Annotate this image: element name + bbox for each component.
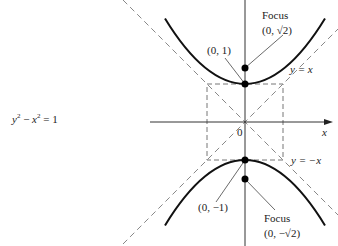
x-axis-arrow-icon (324, 119, 333, 125)
asymptote-y-neg-x (123, 0, 338, 215)
focus-bottom-title: Focus (264, 212, 290, 224)
focus-top-point (242, 65, 249, 72)
vertex-bottom-point (242, 157, 249, 164)
vertex-bottom-label: (0, −1) (198, 201, 228, 213)
vertex-top-point (242, 81, 249, 88)
hyperbola-diagram (0, 0, 338, 246)
asymptote-pos-label: y = x (290, 63, 313, 75)
focus-top-coord: (0, √2) (262, 24, 292, 36)
asymptote-y-x (123, 29, 338, 244)
focus-top-leader (245, 35, 283, 68)
focus-bottom-coord: (0, −√2) (264, 227, 300, 239)
origin-label: 0 (237, 126, 243, 138)
focus-top-title: Focus (262, 9, 288, 21)
x-axis-label: x (322, 126, 327, 138)
vertex-top-label: (0, 1) (207, 44, 231, 56)
focus-bottom-leader (245, 179, 275, 210)
asymptote-neg-label: y = −x (291, 154, 321, 166)
focus-bottom-point (242, 176, 249, 183)
